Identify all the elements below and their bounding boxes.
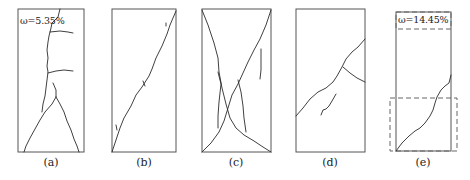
caption-a: (a) bbox=[31, 156, 71, 169]
caption-c: (c) bbox=[216, 156, 256, 169]
specimen-outline-c bbox=[202, 9, 271, 152]
specimen-outline-a bbox=[18, 9, 84, 152]
crack-d-small bbox=[321, 94, 336, 115]
moisture-annotation-a: ω=5.35% bbox=[20, 15, 65, 26]
crack-a-right-leg bbox=[56, 97, 79, 152]
crack-d-branch bbox=[343, 67, 365, 82]
crack-a-branch1 bbox=[50, 31, 73, 33]
panel-c bbox=[202, 9, 271, 152]
crack-c-vertical bbox=[260, 49, 261, 79]
crack-b-branch3 bbox=[116, 125, 117, 130]
crack-a-branch2 bbox=[48, 70, 73, 73]
crack-e-diagonal bbox=[396, 75, 451, 151]
panel-b bbox=[112, 9, 176, 152]
crack-a-left-leg bbox=[24, 97, 56, 152]
caption-b: (b) bbox=[124, 156, 164, 169]
crack-a-mid bbox=[53, 83, 56, 97]
panel-d bbox=[296, 9, 365, 152]
specimen-outline-b bbox=[112, 9, 176, 152]
moisture-annotation-e: ω=14.45% bbox=[398, 14, 448, 25]
panel-e bbox=[390, 12, 457, 151]
crack-c-diag2 bbox=[202, 10, 271, 152]
specimen-outline-e bbox=[396, 12, 451, 151]
crack-c-right bbox=[238, 80, 246, 132]
caption-e: (e) bbox=[403, 156, 443, 169]
caption-d: (d) bbox=[310, 156, 350, 169]
crack-c-diag1 bbox=[202, 10, 271, 152]
crack-c-left bbox=[218, 72, 221, 128]
panel-a bbox=[18, 9, 84, 152]
crack-b-diagonal bbox=[112, 11, 176, 152]
crack-pattern-figure bbox=[0, 0, 470, 180]
crack-d-main bbox=[296, 39, 365, 116]
specimen-outline-d bbox=[296, 9, 365, 152]
